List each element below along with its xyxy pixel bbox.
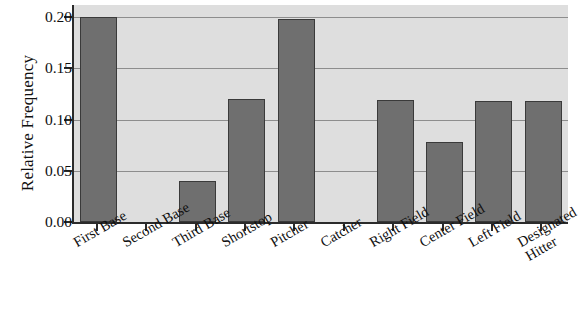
y-axis-tick-label: 0.20 [24,9,72,25]
y-axis-tick-group: 0.000.050.100.150.20 [0,0,72,320]
bar [80,17,117,222]
bar [377,100,414,222]
bar [525,101,562,222]
plot-area [72,5,568,224]
bar [278,19,315,222]
bar [228,99,265,222]
bar [426,142,463,222]
y-axis-tick-label: 0.15 [24,60,72,76]
gridline [74,68,568,69]
gridline [74,17,568,18]
y-axis-tick-label: 0.10 [24,112,72,128]
y-axis-tick-label: 0.05 [24,163,72,179]
bar-chart-figure: Relative Frequency 0.000.050.100.150.20 … [0,0,584,320]
y-axis-tick-label: 0.00 [24,214,72,230]
